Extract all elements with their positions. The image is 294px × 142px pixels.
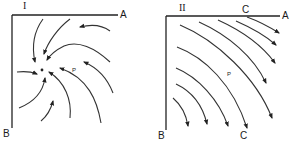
panel-ii-curve-label-top: C [242,4,249,15]
flow-line-arrow-icon [176,68,228,126]
flow-line-arrow-icon [19,78,45,108]
flow-line-arrow-icon [49,72,70,118]
flow-line-arrow-icon [41,101,53,121]
flow-line-arrow-icon [44,19,70,54]
flow-line-arrow-icon [173,98,188,126]
panel-ii-axis-a-label: A [282,10,289,21]
panel-i-sink-point [41,69,44,72]
panel-ii-curve-label-bottom: C [240,130,247,141]
panel-ii-point-label: P [227,71,231,77]
flow-diagram-figure: I A B P II [0,0,294,142]
panel-ii: II A B C C P [158,2,289,141]
flow-line-arrow-icon [177,47,247,128]
panel-i-axis-b-label: B [3,128,10,139]
panel-i-flow-lines [17,19,113,123]
flow-line-arrow-icon [47,44,110,62]
flow-line-arrow-icon [17,72,37,74]
panel-ii-flow-lines [173,17,279,128]
flow-line-arrow-icon [176,84,207,124]
flow-line-arrow-icon [80,25,110,31]
panel-ii-numeral: II [179,2,186,13]
diagram-canvas: I A B P II [0,0,294,142]
panel-i-point-label: P [72,67,76,73]
panel-ii-axis-b-label: B [158,130,165,141]
panel-i-numeral: I [23,0,26,11]
flow-line-arrow-icon [33,19,43,62]
flow-line-arrow-icon [180,25,272,118]
panel-i: I A B P [3,0,127,139]
flow-line-arrow-icon [247,17,279,33]
panel-i-axis-a-label: A [120,9,127,20]
flow-line-arrow-icon [60,68,101,123]
